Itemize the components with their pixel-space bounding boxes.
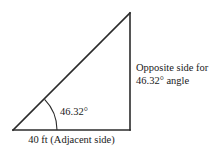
trigonometry-figure: 46.32° Opposite side for 46.32° angle 40…	[0, 0, 215, 154]
angle-arc	[45, 99, 57, 130]
angle-measure-label: 46.32°	[60, 106, 88, 118]
adjacent-side-label: 40 ft (Adjacent side)	[13, 134, 130, 146]
opposite-side-label-line1: Opposite side for	[136, 62, 208, 73]
opposite-side-label: Opposite side for 46.32° angle	[136, 61, 214, 87]
opposite-side-label-line2: 46.32° angle	[136, 75, 189, 86]
